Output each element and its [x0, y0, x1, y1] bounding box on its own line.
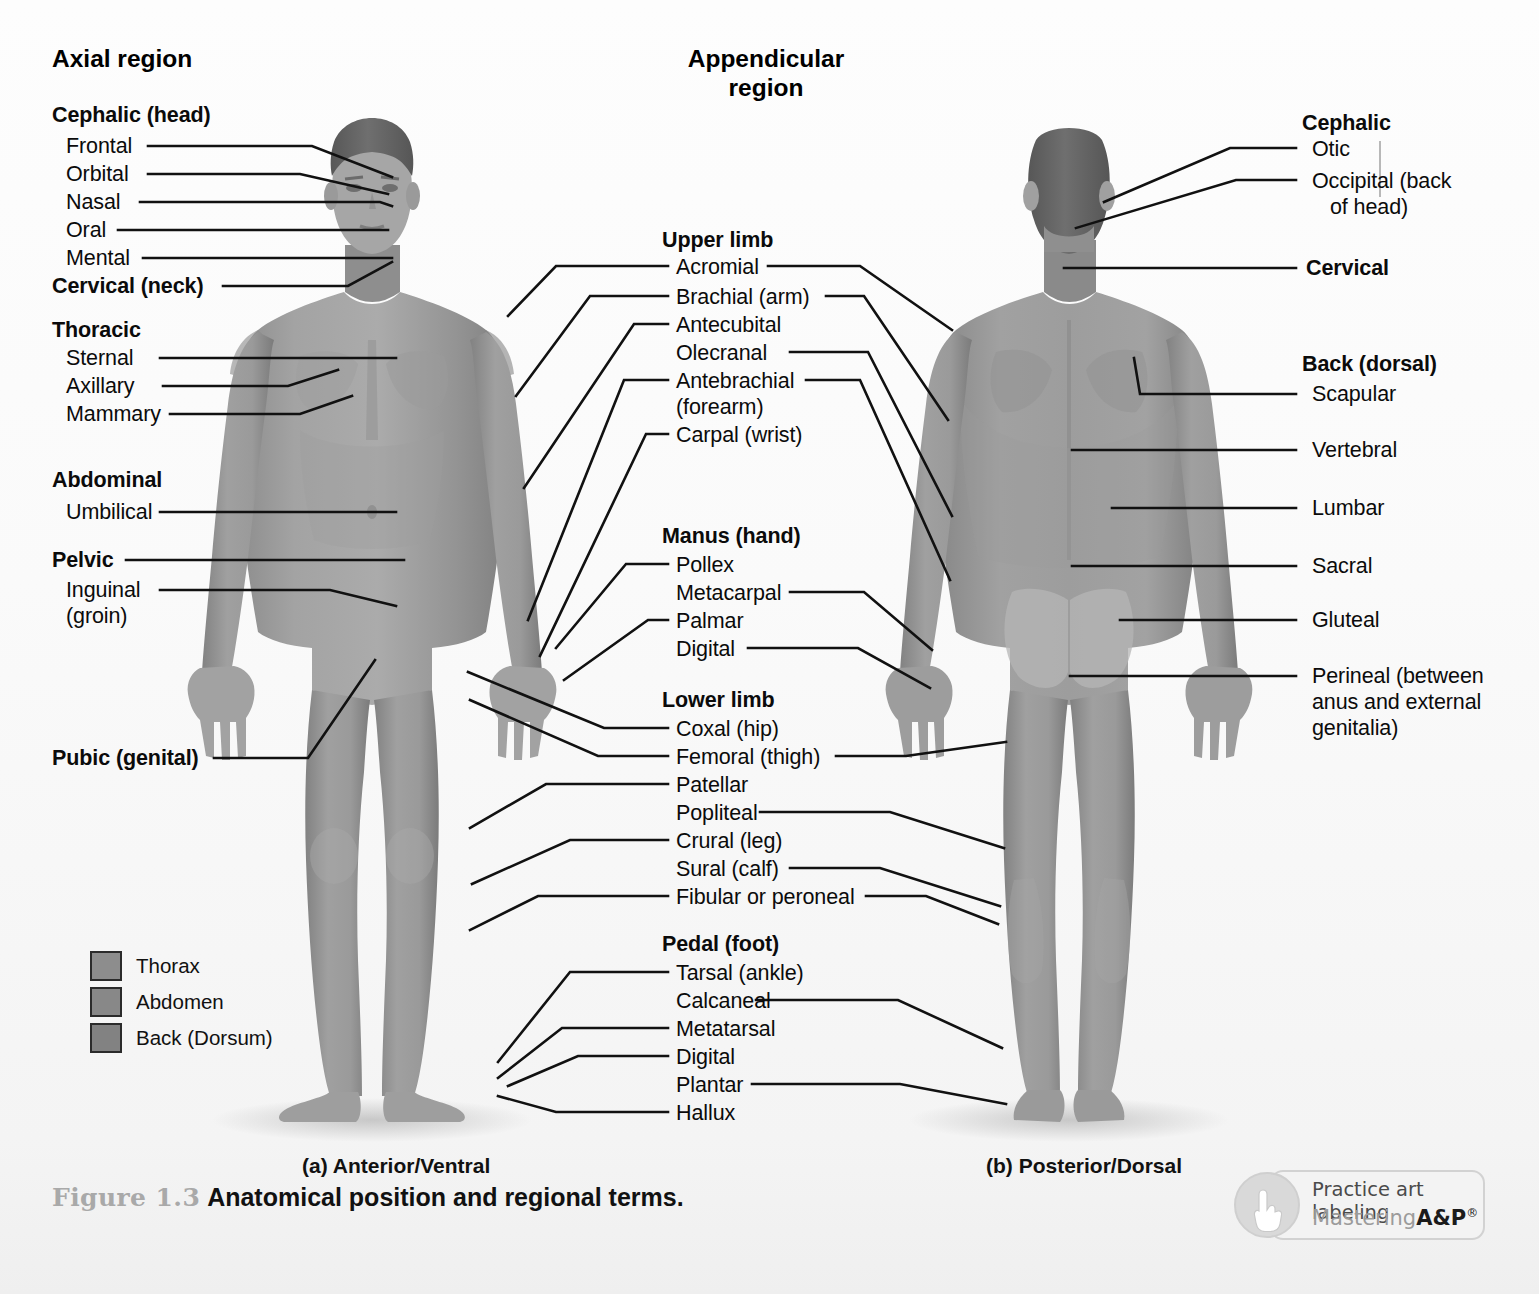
label-abdominal: Abdominal — [52, 468, 162, 493]
badge-registered-mark: ® — [1466, 1206, 1478, 1220]
label-mental: Mental — [66, 246, 130, 271]
label-acromial: Acromial — [676, 255, 759, 280]
label-inguinal: Inguinal — [66, 578, 141, 603]
label-pubic-genital: Pubic (genital) — [52, 746, 199, 771]
legend-item-thorax: Thorax — [90, 948, 273, 984]
posterior-body-figure — [886, 128, 1253, 1142]
legend-swatch-back-dorsum — [90, 1023, 122, 1053]
label-patellar: Patellar — [676, 773, 748, 798]
label-brachial: Brachial (arm) — [676, 285, 810, 310]
label-manus-hand: Manus (hand) — [662, 524, 801, 549]
label-crural-leg: Crural (leg) — [676, 829, 782, 854]
label-hallux: Hallux — [676, 1101, 735, 1126]
label-fibular-peroneal: Fibular or peroneal — [676, 885, 855, 910]
heading-appendicular-region: Appendicular region — [666, 44, 866, 103]
figure-title: Anatomical position and regional terms. — [207, 1183, 683, 1211]
label-cervical-posterior: Cervical — [1306, 256, 1389, 281]
label-sternal: Sternal — [66, 346, 133, 371]
label-tarsal-ankle: Tarsal (ankle) — [676, 961, 804, 986]
label-mammary: Mammary — [66, 402, 161, 427]
label-inguinal-groin: (groin) — [66, 604, 127, 629]
label-antebrachial: Antebrachial — [676, 369, 794, 394]
label-carpal-wrist: Carpal (wrist) — [676, 423, 802, 448]
legend-swatch-thorax — [90, 951, 122, 981]
label-axillary: Axillary — [66, 374, 135, 399]
label-pedal-foot: Pedal (foot) — [662, 932, 779, 957]
legend-item-back-dorsum: Back (Dorsum) — [90, 1020, 273, 1056]
label-frontal: Frontal — [66, 134, 132, 159]
badge-brand: MasteringA&P® — [1312, 1206, 1478, 1230]
label-antebrachial-forearm: (forearm) — [676, 395, 764, 420]
heading-axial-region: Axial region — [52, 44, 192, 73]
badge-brand-ap: A&P — [1416, 1206, 1466, 1230]
label-cervical-neck: Cervical (neck) — [52, 274, 203, 299]
label-antecubital: Antecubital — [676, 313, 781, 338]
label-plantar: Plantar — [676, 1073, 743, 1098]
label-femoral-thigh: Femoral (thigh) — [676, 745, 820, 770]
label-perineal-line2: anus and external — [1312, 690, 1481, 715]
label-coxal-hip: Coxal (hip) — [676, 717, 779, 742]
label-calcaneal: Calcaneal — [676, 989, 771, 1014]
label-perineal-line3: genitalia) — [1312, 716, 1398, 741]
label-popliteal: Popliteal — [676, 801, 758, 826]
pointing-hand-icon — [1252, 1186, 1282, 1232]
mastering-ap-badge[interactable]: Practice art labeling MasteringA&P® — [1234, 1166, 1489, 1244]
label-occipital-line2: of head) — [1330, 195, 1408, 220]
legend-item-abdomen: Abdomen — [90, 984, 273, 1020]
label-lumbar: Lumbar — [1312, 496, 1384, 521]
label-upper-limb: Upper limb — [662, 228, 773, 253]
label-pollex: Pollex — [676, 553, 734, 578]
caption-anterior-ventral: (a) Anterior/Ventral — [302, 1154, 490, 1178]
label-vertebral: Vertebral — [1312, 438, 1397, 463]
anatomy-artwork — [0, 0, 1539, 1294]
label-thoracic: Thoracic — [52, 318, 141, 343]
label-cephalic-head: Cephalic (head) — [52, 103, 211, 128]
figure-number: Figure 1.3 — [52, 1183, 200, 1212]
label-umbilical: Umbilical — [66, 500, 152, 525]
label-sural-calf: Sural (calf) — [676, 857, 779, 882]
legend-label-thorax: Thorax — [136, 954, 200, 978]
label-orbital: Orbital — [66, 162, 129, 187]
label-lower-limb: Lower limb — [662, 688, 774, 713]
label-metatarsal: Metatarsal — [676, 1017, 775, 1042]
label-digital-foot: Digital — [676, 1045, 735, 1070]
label-metacarpal: Metacarpal — [676, 581, 781, 606]
label-gluteal: Gluteal — [1312, 608, 1379, 633]
label-sacral: Sacral — [1312, 554, 1372, 579]
figure-caption: Figure 1.3 Anatomical position and regio… — [52, 1183, 684, 1212]
label-olecranal: Olecranal — [676, 341, 767, 366]
heading-appendicular-line2: region — [729, 74, 804, 101]
label-palmar: Palmar — [676, 609, 744, 634]
label-otic: Otic — [1312, 137, 1350, 162]
label-occipital: Occipital (back — [1312, 169, 1452, 194]
label-back-dorsal: Back (dorsal) — [1302, 352, 1437, 377]
label-scapular: Scapular — [1312, 382, 1396, 407]
label-perineal: Perineal (between — [1312, 664, 1484, 689]
label-oral: Oral — [66, 218, 106, 243]
legend-swatch-abdomen — [90, 987, 122, 1017]
color-legend: Thorax Abdomen Back (Dorsum) — [90, 948, 273, 1056]
label-pelvic: Pelvic — [52, 548, 114, 573]
badge-circle — [1234, 1172, 1300, 1238]
legend-label-abdomen: Abdomen — [136, 990, 224, 1014]
label-digital-hand: Digital — [676, 637, 735, 662]
label-cephalic-posterior: Cephalic — [1302, 111, 1391, 136]
legend-label-back-dorsum: Back (Dorsum) — [136, 1026, 273, 1050]
label-nasal: Nasal — [66, 190, 120, 215]
figure-page: Axial region Appendicular region Cephali… — [0, 0, 1539, 1294]
heading-appendicular-line1: Appendicular — [688, 45, 845, 72]
badge-brand-mastering: Mastering — [1312, 1206, 1416, 1230]
caption-posterior-dorsal: (b) Posterior/Dorsal — [986, 1154, 1182, 1178]
